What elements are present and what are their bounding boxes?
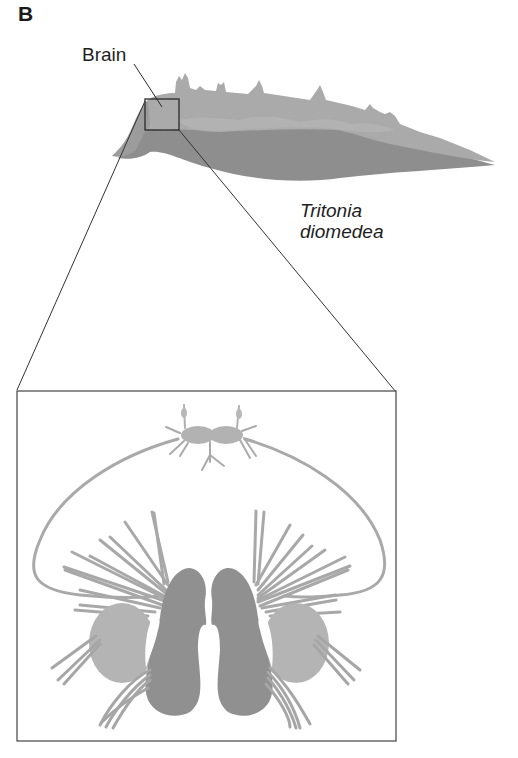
diagram-canvas — [0, 0, 518, 758]
rhinophore-ganglion-right — [236, 409, 242, 419]
enlarged-brain-panel — [17, 391, 396, 741]
pedal-ganglion-right — [209, 426, 243, 444]
zoom-line-left — [17, 101, 145, 390]
rhinophore-ganglion-left — [181, 408, 187, 418]
sea-slug-illustration — [112, 73, 495, 181]
